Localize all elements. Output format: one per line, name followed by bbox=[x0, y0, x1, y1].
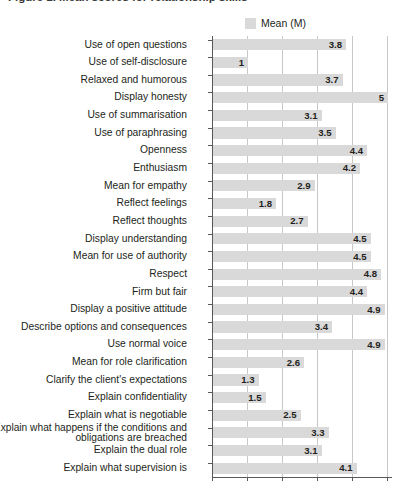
x-axis-line bbox=[212, 477, 392, 478]
bar-label: Explain what supervision is bbox=[0, 459, 194, 477]
bar-row: Display honesty5 bbox=[0, 89, 406, 107]
x-tick-4 bbox=[352, 477, 353, 481]
bar-row: Describe options and consequences3.4 bbox=[0, 318, 406, 336]
y-tick bbox=[208, 216, 212, 217]
bar-value-label: 2.7 bbox=[290, 215, 303, 227]
bar bbox=[213, 127, 336, 138]
y-tick bbox=[208, 410, 212, 411]
bar-label: Describe options and consequences bbox=[0, 318, 194, 336]
y-tick bbox=[208, 251, 212, 252]
y-tick bbox=[208, 234, 212, 235]
y-tick bbox=[208, 163, 212, 164]
bar-value-label: 4.8 bbox=[364, 268, 377, 280]
bar-row: Mean for empathy2.9 bbox=[0, 177, 406, 195]
x-tick-5 bbox=[387, 477, 388, 481]
bar-row: Respect4.8 bbox=[0, 265, 406, 283]
bar-chart: Use of open questions3.8Use of self-disc… bbox=[0, 36, 406, 488]
figure-title: Figure 1. Mean scores for relationship s… bbox=[8, 0, 248, 3]
bar-value-label: 2.9 bbox=[297, 180, 310, 192]
bar-label: Mean for empathy bbox=[0, 177, 194, 195]
bar-value-label: 3.5 bbox=[318, 127, 331, 139]
y-tick bbox=[208, 375, 212, 376]
bar-label: Explain the dual role bbox=[0, 442, 194, 460]
y-tick bbox=[208, 304, 212, 305]
bar-label: Clarify the client's expectations bbox=[0, 371, 194, 389]
x-tick-3 bbox=[317, 477, 318, 481]
bar bbox=[213, 233, 371, 244]
bar bbox=[213, 286, 367, 297]
bar-value-label: 2.6 bbox=[287, 357, 300, 369]
bar-value-label: 4.1 bbox=[339, 462, 352, 474]
bar-value-label: 4.4 bbox=[350, 145, 363, 157]
bar-row: Reflect feelings1.8 bbox=[0, 195, 406, 213]
bar-label: Respect bbox=[0, 265, 194, 283]
bar-value-label: 4.9 bbox=[367, 339, 380, 351]
bar-row: Explain confidentiality1.5 bbox=[0, 389, 406, 407]
bar-value-label: 4.5 bbox=[353, 251, 366, 263]
bar-row: Display understanding4.5 bbox=[0, 230, 406, 248]
y-tick bbox=[208, 322, 212, 323]
y-tick bbox=[208, 463, 212, 464]
bar-label: Reflect thoughts bbox=[0, 212, 194, 230]
bar-label: Display honesty bbox=[0, 89, 194, 107]
bar bbox=[213, 463, 357, 474]
bar-label: Use of open questions bbox=[0, 36, 194, 54]
y-tick bbox=[208, 145, 212, 146]
bar-row: Explain what supervision is4.1 bbox=[0, 459, 406, 477]
bar-row: Openness4.4 bbox=[0, 142, 406, 160]
bar-value-label: 3.8 bbox=[329, 39, 342, 51]
bar-label: Reflect feelings bbox=[0, 195, 194, 213]
bar-label: Firm but fair bbox=[0, 283, 194, 301]
bar-row: Clarify the client's expectations1.3 bbox=[0, 371, 406, 389]
bar-value-label: 1.3 bbox=[241, 374, 254, 386]
bar-row: Enthusiasm4.2 bbox=[0, 159, 406, 177]
bar-value-label: 2.5 bbox=[283, 409, 296, 421]
bar-value-label: 5 bbox=[379, 92, 384, 104]
legend-label-mean: Mean (M) bbox=[261, 17, 306, 29]
y-tick bbox=[208, 181, 212, 182]
bar bbox=[213, 269, 381, 280]
bar-row: Relaxed and humorous3.7 bbox=[0, 71, 406, 89]
y-tick bbox=[208, 357, 212, 358]
y-tick bbox=[208, 40, 212, 41]
bar-label: Mean for role clarification bbox=[0, 354, 194, 372]
y-tick bbox=[208, 92, 212, 93]
bar-value-label: 1.5 bbox=[248, 392, 261, 404]
bar-row: Use of self-disclosure1 bbox=[0, 54, 406, 72]
bar bbox=[213, 92, 388, 103]
bar-row: Use normal voice4.9 bbox=[0, 336, 406, 354]
y-tick bbox=[208, 428, 212, 429]
bar-label: Relaxed and humorous bbox=[0, 71, 194, 89]
bar bbox=[213, 145, 367, 156]
y-tick bbox=[208, 75, 212, 76]
bar-row: Display a positive attitude4.9 bbox=[0, 301, 406, 319]
x-tick-1 bbox=[247, 477, 248, 481]
bar-label: Enthusiasm bbox=[0, 159, 194, 177]
y-tick bbox=[208, 128, 212, 129]
bar-row: Explain what happens if the conditions a… bbox=[0, 424, 406, 442]
bar bbox=[213, 251, 371, 262]
bar-label: Explain confidentiality bbox=[0, 389, 194, 407]
bar-value-label: 3.4 bbox=[315, 321, 328, 333]
bar-value-label: 1 bbox=[239, 57, 244, 69]
bar-row: Mean for use of authority4.5 bbox=[0, 248, 406, 266]
bar-label: Mean for use of authority bbox=[0, 248, 194, 266]
bar-row: Explain the dual role3.1 bbox=[0, 442, 406, 460]
bar-value-label: 1.8 bbox=[259, 198, 272, 210]
bar bbox=[213, 304, 385, 315]
bar bbox=[213, 39, 346, 50]
bar-row: Use of paraphrasing3.5 bbox=[0, 124, 406, 142]
bar-label: Display understanding bbox=[0, 230, 194, 248]
legend-swatch-mean bbox=[245, 18, 256, 29]
bar-label: Use normal voice bbox=[0, 336, 194, 354]
bar-value-label: 4.5 bbox=[353, 233, 366, 245]
y-tick bbox=[208, 445, 212, 446]
bar-value-label: 3.1 bbox=[304, 110, 317, 122]
bar-label: Display a positive attitude bbox=[0, 301, 194, 319]
figure-title-strip: Figure 1. Mean scores for relationship s… bbox=[0, 0, 406, 7]
y-tick bbox=[208, 198, 212, 199]
x-tick-2 bbox=[282, 477, 283, 481]
chart-legend: Mean (M) bbox=[245, 17, 306, 29]
bar-label: Use of summarisation bbox=[0, 107, 194, 125]
bar-value-label: 3.3 bbox=[311, 427, 324, 439]
